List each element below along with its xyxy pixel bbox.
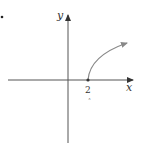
x-axis-label: x [126, 81, 133, 94]
curve-start-point [86, 78, 89, 81]
function-curve [88, 43, 127, 80]
y-axis-label: y [56, 9, 64, 22]
graph-diagram: y x 2 ˄ [0, 0, 143, 146]
bullet-dot [1, 16, 4, 19]
x-tick-label-2: 2 [85, 85, 91, 95]
tick-mark-below: ˄ [88, 97, 91, 104]
